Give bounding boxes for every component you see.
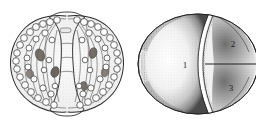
right-figure: 1 2 3 <box>138 13 256 116</box>
region-label-3: 3 <box>229 83 234 93</box>
region-label-2: 2 <box>231 39 236 49</box>
region-label-1: 1 <box>183 60 188 70</box>
illustration-canvas: 1 2 3 <box>0 0 256 126</box>
figure-plate: 1 2 3 <box>0 0 256 126</box>
left-figure <box>11 12 124 116</box>
